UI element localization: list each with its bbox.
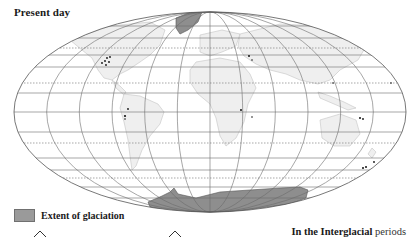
world-map <box>0 0 413 243</box>
caret-up-icon <box>33 229 47 239</box>
caret-up-icon <box>168 229 182 239</box>
glaciation-swatch <box>14 209 35 222</box>
legend-label: Extent of glaciation <box>41 210 124 221</box>
caption-bold: In the Interglacial <box>291 226 372 237</box>
caption-rest: periods <box>372 226 406 237</box>
legend: Extent of glaciation <box>14 209 124 222</box>
map-title: Present day <box>14 6 70 18</box>
caption: In the Interglacial periods <box>291 226 406 237</box>
